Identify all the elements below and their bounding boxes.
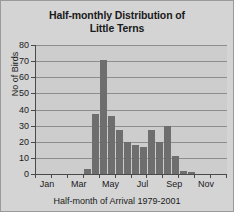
bar bbox=[148, 130, 155, 174]
bar bbox=[156, 142, 163, 174]
x-tick-label: May bbox=[102, 179, 119, 189]
x-tick-label: Sep bbox=[166, 179, 182, 189]
x-tick-mark bbox=[131, 174, 132, 178]
chart-title: Half-monthly Distribution of Little Tern… bbox=[1, 9, 233, 34]
x-tick-label: Nov bbox=[198, 179, 214, 189]
bar-series bbox=[36, 45, 227, 174]
x-tick-mark bbox=[210, 174, 211, 178]
chart-title-line-2: Little Terns bbox=[1, 22, 233, 35]
x-tick-mark bbox=[35, 174, 36, 178]
x-tick-mark bbox=[51, 174, 52, 178]
plot-area bbox=[35, 45, 227, 175]
chart-title-line-1: Half-monthly Distribution of bbox=[1, 9, 233, 22]
y-axis-ticks: 80706050403020100 bbox=[1, 45, 35, 174]
x-tick-mark bbox=[99, 174, 100, 178]
bar bbox=[92, 114, 99, 174]
bar bbox=[108, 116, 115, 174]
chart-figure: Half-monthly Distribution of Little Tern… bbox=[0, 0, 234, 212]
y-tick-label: 50 bbox=[19, 88, 29, 98]
x-tick-mark bbox=[146, 174, 147, 178]
x-tick-mark bbox=[115, 174, 116, 178]
x-tick-mark bbox=[83, 174, 84, 178]
bar bbox=[100, 60, 107, 174]
y-tick-label: 20 bbox=[19, 137, 29, 147]
x-axis-label: Half-month of Arrival 1979-2001 bbox=[1, 196, 233, 206]
y-tick-label: 10 bbox=[19, 153, 29, 163]
bar bbox=[140, 147, 147, 174]
bar bbox=[124, 142, 131, 174]
bar bbox=[116, 130, 123, 174]
y-tick-label: 60 bbox=[19, 72, 29, 82]
x-tick-mark bbox=[178, 174, 179, 178]
x-axis-tick-labels: JanMarMayJulSepNov bbox=[35, 179, 226, 193]
x-tick-mark bbox=[194, 174, 195, 178]
x-tick-label: Jan bbox=[40, 179, 55, 189]
y-tick-label: 30 bbox=[19, 121, 29, 131]
y-tick-label: 0 bbox=[24, 169, 29, 179]
x-tick-mark bbox=[226, 174, 227, 178]
y-tick-label: 70 bbox=[19, 56, 29, 66]
x-tick-mark bbox=[67, 174, 68, 178]
y-tick-label: 40 bbox=[19, 105, 29, 115]
x-tick-label: Mar bbox=[71, 179, 87, 189]
bar bbox=[164, 126, 171, 174]
x-tick-label: Jul bbox=[137, 179, 149, 189]
bar bbox=[172, 156, 179, 174]
y-tick-label: 80 bbox=[19, 40, 29, 50]
x-tick-mark bbox=[162, 174, 163, 178]
bar bbox=[132, 145, 139, 174]
